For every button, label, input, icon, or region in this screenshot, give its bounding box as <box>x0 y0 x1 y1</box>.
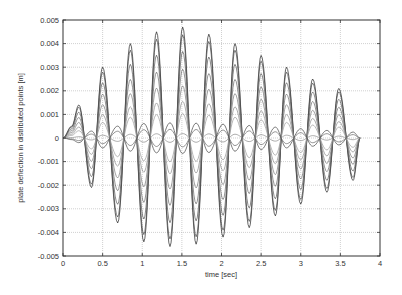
y-tick-label: -0.001 <box>38 157 59 166</box>
x-axis-label: time [sec] <box>205 270 237 279</box>
y-tick-label: 0.002 <box>40 86 59 95</box>
y-tick-label: 0.004 <box>40 39 59 48</box>
x-tick-label: 0 <box>61 259 65 268</box>
y-tick-label: 0.005 <box>40 16 59 25</box>
data-curves <box>63 27 360 246</box>
x-tick-label: 1.5 <box>177 259 187 268</box>
y-tick-label: -0.004 <box>38 228 59 237</box>
x-tick-label: 2.5 <box>256 259 266 268</box>
x-tick-label: 3 <box>299 259 303 268</box>
x-tick-label: 3.5 <box>335 259 345 268</box>
y-tick-label: 0.003 <box>40 63 59 72</box>
y-axis-label: plate deflection in distributed points [… <box>16 73 25 203</box>
y-tick-label: -0.003 <box>38 204 59 213</box>
axis-ticks: 00.511.522.533.54-0.005-0.004-0.003-0.00… <box>38 16 382 269</box>
x-tick-label: 4 <box>378 259 382 268</box>
y-tick-label: 0 <box>55 134 59 143</box>
x-tick-label: 2 <box>219 259 223 268</box>
y-tick-label: -0.002 <box>38 181 59 190</box>
deflection-chart: 00.511.522.533.54-0.005-0.004-0.003-0.00… <box>0 0 402 295</box>
y-tick-label: 0.001 <box>40 110 59 119</box>
y-tick-label: -0.005 <box>38 252 59 261</box>
x-tick-label: 0.5 <box>97 259 107 268</box>
x-tick-label: 1 <box>140 259 144 268</box>
